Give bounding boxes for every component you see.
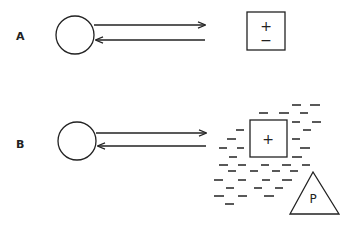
panel-a: A + − [16,12,285,54]
panel-b-circle [58,122,96,160]
diagram-canvas: A + − B + P [0,0,356,228]
panel-b-triangle-label: P [309,192,316,206]
panel-b-label: B [16,138,24,151]
panel-a-label: A [16,30,25,43]
panel-a-circle [56,16,94,54]
panel-b: B + P [16,105,339,214]
panel-b-plus-symbol: + [262,131,274,147]
panel-a-minus-symbol: − [260,32,272,48]
